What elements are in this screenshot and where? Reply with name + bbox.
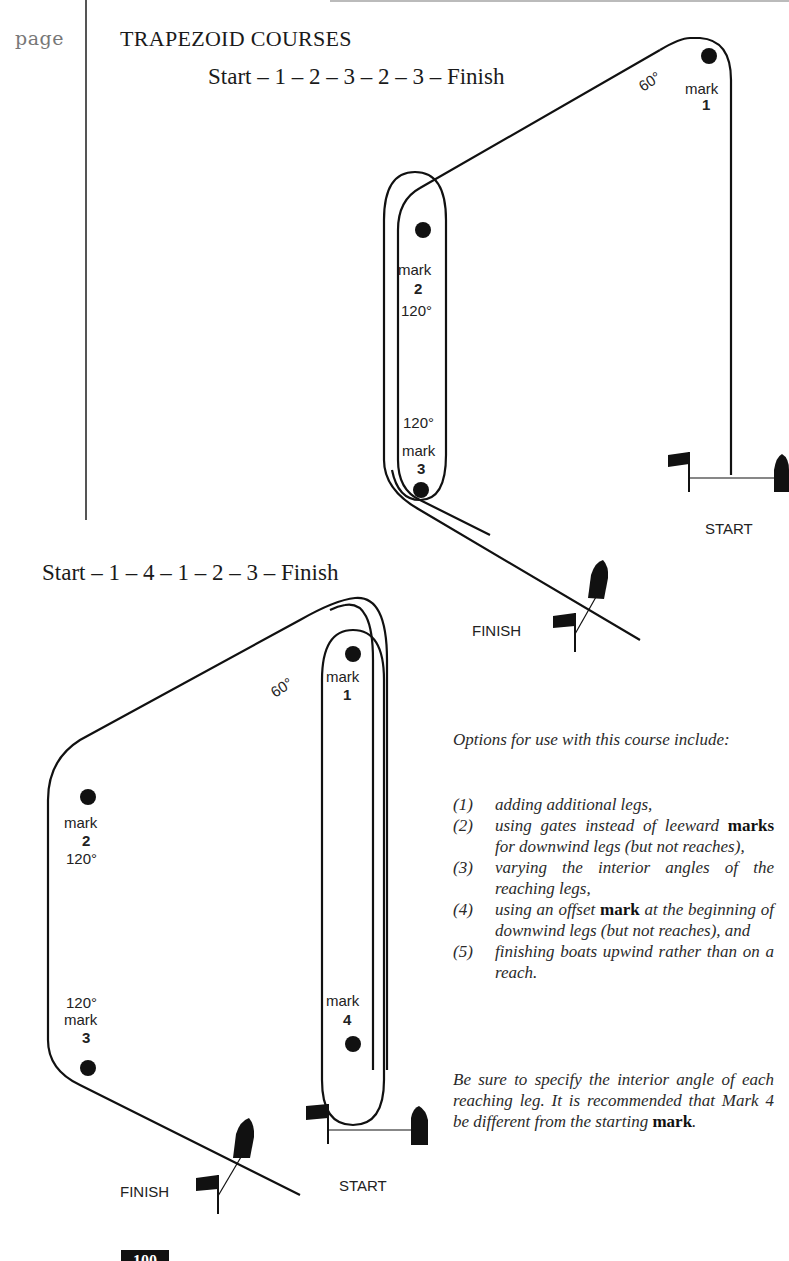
course-1-mark-2-label: mark — [398, 261, 432, 278]
option-text: using gates instead of leeward marks for… — [495, 815, 774, 857]
finish-boat-icon — [588, 560, 608, 599]
course-1-mark-2-num: 2 — [414, 280, 422, 297]
course-2-mark-2-buoy — [80, 789, 96, 805]
option-item: (4) using an offset mark at the beginnin… — [453, 899, 774, 941]
course-2-start-label: START — [339, 1177, 387, 1194]
course-2-mark-3-buoy — [80, 1060, 96, 1076]
start-flag-icon — [668, 452, 689, 467]
option-text: adding additional legs, — [495, 794, 774, 815]
course-2-mark-1-num: 1 — [343, 686, 351, 703]
options-list: (1) adding additional legs, (2) using ga… — [453, 794, 774, 983]
course-1-mark-1-label: mark — [685, 80, 719, 97]
course-2-arrows — [48, 680, 387, 1193]
course-1-mark-1-num: 1 — [702, 96, 710, 113]
course-2-start-line — [306, 1104, 428, 1145]
course-2-mark-4-num: 4 — [343, 1011, 352, 1028]
option-number: (4) — [453, 899, 495, 941]
course-2-mark-3-label: mark — [64, 1011, 98, 1028]
options-intro: Options for use with this course include… — [453, 729, 774, 750]
option-number: (3) — [453, 857, 495, 899]
committee-boat-icon — [774, 454, 789, 492]
finish-boat-icon — [233, 1118, 254, 1158]
course-2-diagram — [48, 598, 387, 1195]
course-1-diagram — [384, 38, 731, 640]
course-1-angle-mark-3: 120° — [403, 414, 434, 431]
option-item: (2) using gates instead of leeward marks… — [453, 815, 774, 857]
course-1-finish-label: FINISH — [472, 622, 521, 639]
course-2-angle-mark-1: 60° — [267, 674, 295, 701]
option-number: (1) — [453, 794, 495, 815]
course-1-start-line — [668, 452, 789, 492]
option-item: (3) varying the interior angles of the r… — [453, 857, 774, 899]
option-text: finishing boats upwind rather than on a … — [495, 941, 774, 983]
course-2-angle-mark-3: 120° — [66, 994, 97, 1011]
course-1-mark-1-buoy — [701, 48, 717, 64]
course-1-angle-mark-1: 60° — [635, 68, 663, 95]
course-2-finish-line — [196, 1118, 254, 1214]
course-2-mark-1-label: mark — [326, 668, 360, 685]
course-2-mark-4-buoy — [345, 1036, 361, 1052]
course-1-start-label: START — [705, 520, 753, 537]
committee-boat-icon — [411, 1106, 428, 1145]
course-2-mark-4-label: mark — [326, 992, 360, 1009]
course-2-mark-2-num: 2 — [82, 832, 90, 849]
option-item: (5) finishing boats upwind rather than o… — [453, 941, 774, 983]
course-2-mark-2-label: mark — [64, 814, 98, 831]
course-2-mark-3-num: 3 — [82, 1029, 90, 1046]
option-text: using an offset mark at the beginning of… — [495, 899, 774, 941]
option-text: varying the interior angles of the reach… — [495, 857, 774, 899]
option-number: (5) — [453, 941, 495, 983]
course-2-mark-1-buoy — [345, 646, 361, 662]
course-1-mark-3-buoy — [413, 482, 429, 498]
course-1-mark-3-label: mark — [402, 442, 436, 459]
course-1-mark-2-buoy — [415, 222, 431, 238]
page-number: 100 — [121, 1250, 169, 1261]
course-2-angle-mark-2: 120° — [66, 850, 97, 867]
course-2-finish-label: FINISH — [120, 1183, 169, 1200]
option-item: (1) adding additional legs, — [453, 794, 774, 815]
option-number: (2) — [453, 815, 495, 857]
finish-flag-icon — [196, 1175, 218, 1191]
course-1-angle-mark-2: 120° — [401, 302, 432, 319]
start-flag-icon — [306, 1104, 328, 1120]
course-1-mark-3-num: 3 — [417, 460, 425, 477]
recommendation-note: Be sure to specify the interior angle of… — [453, 1069, 774, 1132]
finish-flag-icon — [553, 613, 575, 628]
